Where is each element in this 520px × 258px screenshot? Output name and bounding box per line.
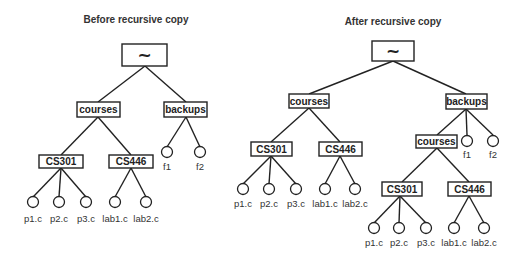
file-f1: f1 — [162, 147, 173, 173]
file-p2: p2.c — [50, 197, 68, 225]
file-lab2: lab2.c — [133, 197, 159, 225]
file-p2: p2.c — [260, 184, 278, 210]
file-f2: f2 — [195, 147, 206, 173]
svg-text:p3.c: p3.c — [417, 237, 435, 248]
svg-text:p2.c: p2.c — [390, 237, 408, 248]
copied-file-p1: p1.c — [365, 223, 383, 249]
svg-text:f1: f1 — [463, 149, 471, 160]
svg-text:CS446: CS446 — [325, 144, 356, 155]
svg-text:f2: f2 — [196, 161, 204, 172]
after-title: After recursive copy — [345, 16, 442, 27]
cs446-dir-node: CS446 — [109, 155, 153, 168]
courses-dir-node: courses — [77, 102, 120, 117]
file-lab1: lab1.c — [102, 197, 128, 225]
svg-text:lab1.c: lab1.c — [102, 213, 128, 224]
courses-dir-node: courses — [289, 94, 329, 108]
file-p3: p3.c — [77, 197, 95, 225]
root-label: ~ — [137, 45, 151, 65]
svg-text:backups: backups — [446, 96, 487, 107]
cs446-dir-node: CS446 — [319, 142, 362, 156]
directory-tree-diagram: Before recursive copy ~ courses backups … — [0, 0, 520, 258]
svg-text:p1.c: p1.c — [24, 213, 42, 224]
file-p3: p3.c — [287, 184, 305, 210]
svg-text:CS301: CS301 — [256, 144, 287, 155]
root-dir-node: ~ — [372, 41, 414, 61]
copied-cs301-dir-node: CS301 — [382, 182, 422, 196]
cs301-dir-node: CS301 — [39, 155, 83, 168]
after-tree: After recursive copy ~ courses — [234, 16, 498, 248]
before-tree: Before recursive copy ~ courses backups … — [24, 14, 207, 224]
backups-dir-node: backups — [164, 102, 207, 117]
before-title: Before recursive copy — [83, 14, 188, 25]
svg-text:courses: courses — [417, 136, 456, 147]
file-lab1: lab1.c — [312, 184, 338, 210]
file-p1: p1.c — [234, 184, 252, 210]
root-dir-node: ~ — [122, 44, 167, 66]
svg-text:courses: courses — [79, 104, 118, 115]
svg-text:backups: backups — [165, 104, 206, 115]
copied-file-lab2: lab2.c — [471, 223, 497, 249]
file-f2: f2 — [488, 136, 499, 161]
svg-text:courses: courses — [290, 96, 329, 107]
svg-text:lab2.c: lab2.c — [133, 213, 159, 224]
svg-text:lab2.c: lab2.c — [342, 198, 368, 209]
svg-text:CS301: CS301 — [387, 184, 418, 195]
svg-text:lab2.c: lab2.c — [471, 237, 497, 248]
root-label: ~ — [386, 41, 400, 61]
svg-text:lab1.c: lab1.c — [441, 237, 467, 248]
svg-text:lab1.c: lab1.c — [312, 198, 338, 209]
file-lab2: lab2.c — [342, 184, 368, 210]
copied-file-p2: p2.c — [390, 223, 408, 249]
svg-text:p3.c: p3.c — [77, 213, 95, 224]
svg-text:CS446: CS446 — [116, 156, 147, 167]
copied-file-p3: p3.c — [417, 223, 435, 249]
svg-text:p1.c: p1.c — [234, 198, 252, 209]
file-p1: p1.c — [24, 197, 42, 225]
copied-cs446-dir-node: CS446 — [448, 182, 491, 196]
copied-courses-dir-node: courses — [416, 135, 457, 148]
svg-text:p1.c: p1.c — [365, 237, 383, 248]
cs301-dir-node: CS301 — [251, 142, 292, 156]
backups-dir-node: backups — [446, 94, 487, 109]
svg-text:f2: f2 — [489, 149, 497, 160]
svg-text:p2.c: p2.c — [50, 213, 68, 224]
svg-text:p2.c: p2.c — [260, 198, 278, 209]
svg-text:CS301: CS301 — [46, 156, 77, 167]
file-f1: f1 — [462, 136, 473, 161]
svg-text:CS446: CS446 — [454, 184, 485, 195]
copied-file-lab1: lab1.c — [441, 223, 467, 249]
svg-text:f1: f1 — [163, 161, 171, 172]
svg-text:p3.c: p3.c — [287, 198, 305, 209]
